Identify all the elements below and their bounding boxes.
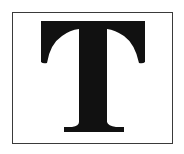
letter-t-glyph bbox=[0, 0, 184, 154]
